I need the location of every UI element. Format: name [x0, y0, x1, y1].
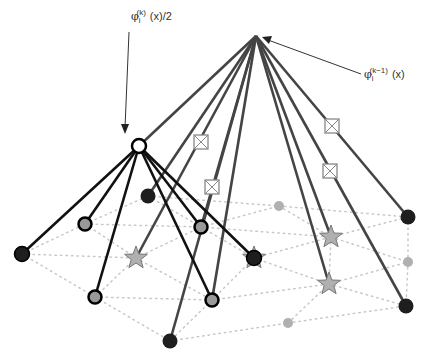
mesh-edge [22, 254, 95, 297]
fine-node-icon [195, 221, 208, 234]
label-argument: (x) [392, 68, 405, 80]
fine-edge [139, 146, 254, 258]
mesh-edge [212, 284, 329, 300]
coarse-edge [256, 36, 331, 237]
mesh-edge [136, 258, 212, 300]
fine-edge [139, 146, 201, 227]
label-argument: (x)/2 [150, 10, 172, 22]
coarse-node-icon [399, 299, 414, 314]
crossed-box-icon [194, 135, 208, 149]
coarse-node-icon [163, 334, 178, 349]
mesh-edge [329, 262, 408, 284]
mesh-edge [288, 306, 406, 323]
label-phi-k-half: φi(k)(x)/2 [131, 8, 172, 25]
star-marker-icon [318, 272, 341, 294]
label-subscript: i [372, 74, 374, 83]
fine-node-icon [15, 247, 30, 262]
mesh-edge [95, 297, 212, 300]
mesh-edge [95, 297, 170, 341]
label-phi-k-minus-1: φi(k−1)(x) [364, 66, 405, 83]
fine-edge [95, 146, 139, 297]
mesh-edge [331, 217, 408, 237]
fine-node-icon [79, 218, 92, 231]
arrow-line-half [125, 32, 129, 128]
mesh-edge [85, 224, 201, 227]
mesh-edge [279, 206, 408, 217]
crossed-box-icon [325, 119, 339, 133]
mesh-edge [22, 224, 85, 254]
fine-node-icon [89, 291, 102, 304]
coarse-node-icon [401, 210, 416, 225]
fine-node-icon [206, 294, 219, 307]
mesh-node-icon [274, 201, 284, 211]
label-superscript: (k) [136, 8, 145, 17]
fine-node-icon [247, 251, 262, 266]
hierarchical-basis-diagram [0, 0, 432, 362]
star-marker-icon [125, 246, 148, 268]
coarse-edge [139, 36, 256, 146]
crossed-box-icon [323, 164, 337, 178]
label-superscript: (k−1) [369, 66, 387, 75]
crossed-box-icon [205, 180, 219, 194]
label-subscript: i [139, 16, 141, 25]
arrowhead-icon [121, 124, 129, 134]
mesh-edge [170, 323, 288, 341]
triangle-mesh [22, 196, 408, 341]
mesh-node-icon [403, 257, 413, 267]
mesh-node-icon [283, 318, 293, 328]
arrowhead-icon [262, 36, 272, 44]
mesh-edge [22, 254, 136, 258]
mesh-edge [279, 206, 331, 237]
refined-node-icon [132, 139, 146, 153]
coarse-node-icon [141, 189, 156, 204]
fine-edge [22, 146, 139, 254]
